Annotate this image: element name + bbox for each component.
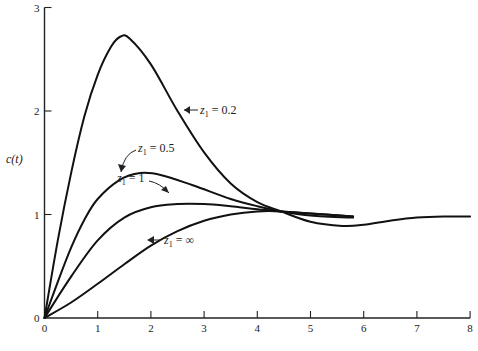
y-tick-label: 1 [34,209,40,221]
y-tick-label: 2 [34,105,40,117]
annotation-label: z1 = 0.5 [137,141,174,157]
annotation-label: z1 = 1 [116,171,144,187]
x-tick-label: 8 [467,322,473,334]
x-tick-label: 2 [148,322,154,334]
y-axis-label: c(t) [6,152,23,166]
step-response-chart: 0123456780123 z1 = 0.2z1 = 0.5z1 = 1z1 =… [0,0,478,351]
annotation-label: z1 = ∞ [163,233,194,249]
arrowhead-icon [147,236,154,244]
annotation-label: z1 = 0.2 [199,103,236,119]
x-tick-label: 3 [201,322,207,334]
x-tick-label: 1 [95,322,101,334]
axes: 0123456780123 [34,2,473,335]
curve-z1-inf [45,211,354,318]
curve-z1-0-5 [45,173,354,318]
y-tick-label: 3 [34,2,40,14]
arrowhead-icon [184,106,190,114]
y-tick-label: 0 [34,312,40,324]
annotation-z1-0-2: z1 = 0.2 [184,103,236,119]
annotation-z1-0-5: z1 = 0.5 [118,141,174,172]
curves [45,35,471,318]
x-tick-label: 0 [42,322,48,334]
annotations: z1 = 0.2z1 = 0.5z1 = 1z1 = ∞ [116,103,236,249]
x-tick-label: 7 [414,322,420,334]
x-tick-label: 5 [308,322,314,334]
x-tick-label: 4 [255,322,261,334]
x-tick-label: 6 [361,322,367,334]
